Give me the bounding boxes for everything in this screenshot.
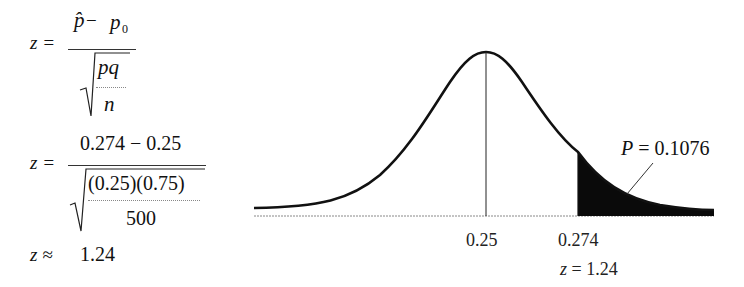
- z-score-label: z = 1.24: [560, 259, 618, 280]
- z-var: z: [560, 259, 567, 279]
- p-var: P: [621, 137, 633, 159]
- normal-curve: [254, 52, 714, 210]
- tick-label-mean: 0.25: [466, 230, 498, 251]
- tick-label-sample: 0.274: [558, 230, 599, 251]
- sqrt-symbol: [70, 169, 205, 231]
- sqrt-symbol: [80, 53, 130, 116]
- shaded-tail-region: [578, 152, 714, 216]
- p-leader-line: [627, 163, 653, 194]
- p-value-label: P = 0.1076: [621, 137, 710, 160]
- z-value-text: = 1.24: [567, 259, 618, 279]
- p-value-text: = 0.1076: [633, 137, 709, 159]
